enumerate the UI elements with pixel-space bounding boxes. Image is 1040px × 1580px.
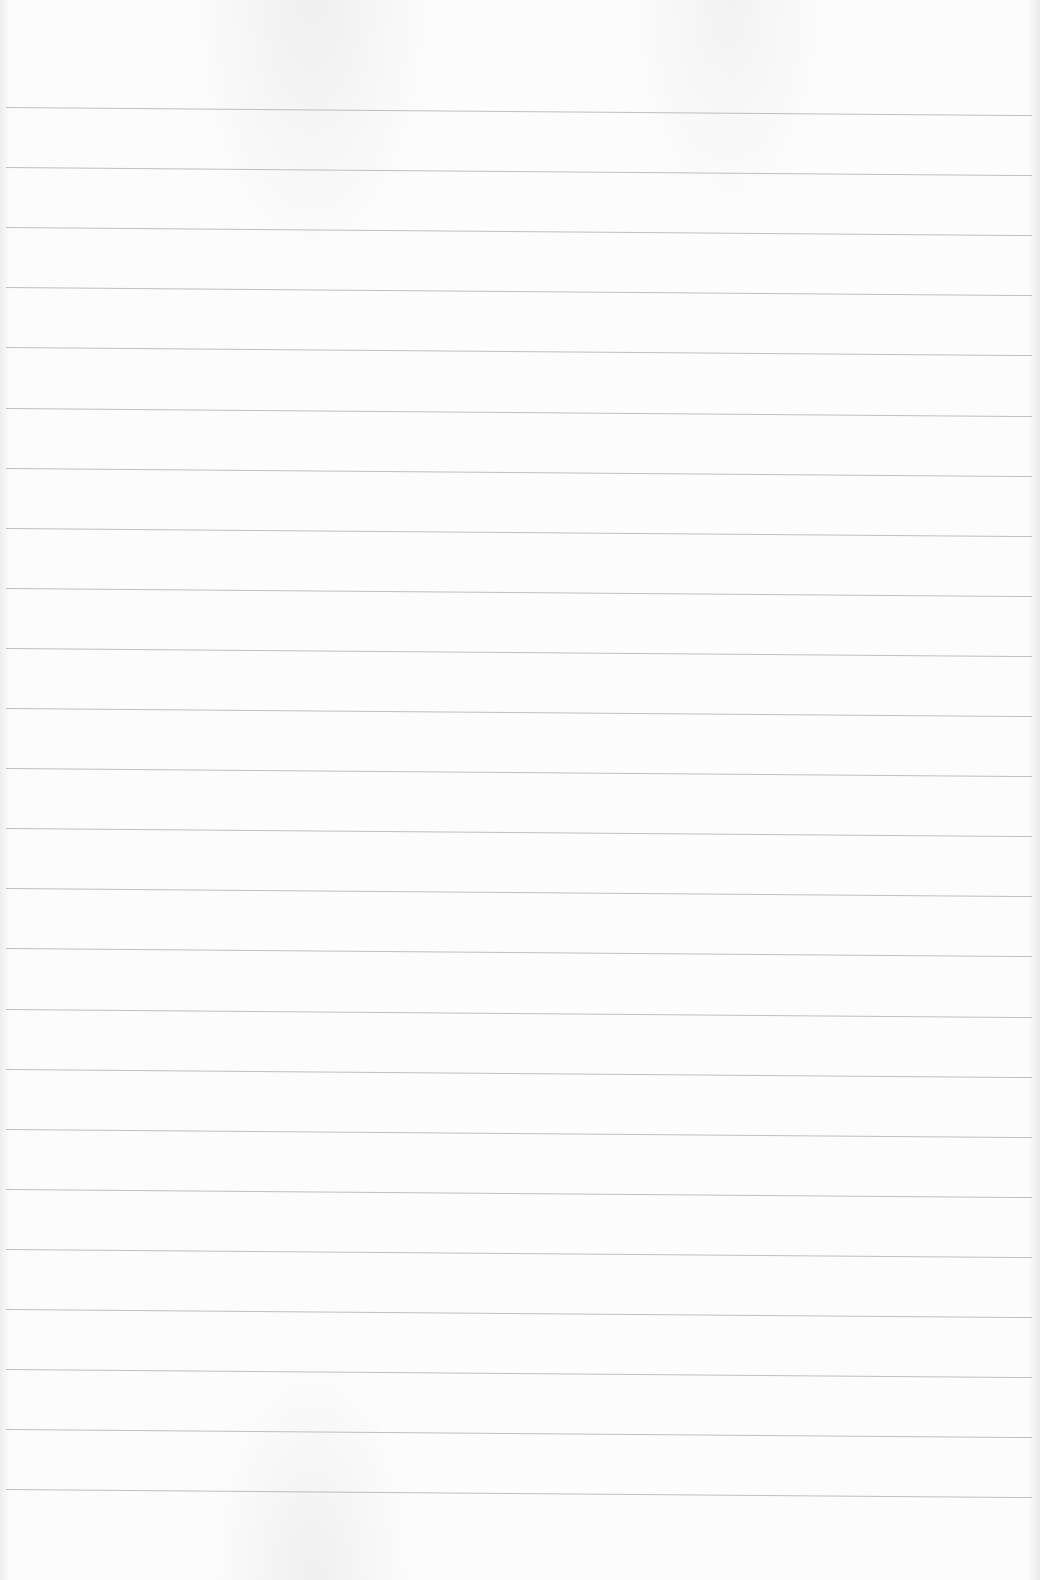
ruled-line xyxy=(6,1069,1032,1078)
ruled-line xyxy=(6,768,1032,777)
ruled-line xyxy=(6,948,1032,957)
ruled-line xyxy=(6,107,1032,116)
ruled-paper-sheet xyxy=(0,0,1040,1580)
ruled-line xyxy=(6,648,1032,657)
ruled-line xyxy=(6,1189,1032,1198)
ruled-line xyxy=(6,1489,1032,1498)
ruled-line xyxy=(6,468,1032,477)
ruled-line xyxy=(6,227,1032,236)
ruled-line xyxy=(6,588,1032,597)
ruled-line xyxy=(6,287,1032,296)
ruled-line xyxy=(6,347,1032,356)
ruled-line xyxy=(6,1249,1032,1258)
ruled-line xyxy=(6,528,1032,537)
ruled-line xyxy=(6,1009,1032,1018)
ruled-line xyxy=(6,708,1032,717)
ruled-line xyxy=(6,888,1032,897)
ruled-line xyxy=(6,167,1032,176)
ruled-line xyxy=(6,1369,1032,1378)
ruled-line xyxy=(6,828,1032,837)
ruled-line xyxy=(6,1129,1032,1138)
ruled-line xyxy=(6,1429,1032,1438)
ruled-line xyxy=(6,1309,1032,1318)
ruled-line xyxy=(6,408,1032,417)
